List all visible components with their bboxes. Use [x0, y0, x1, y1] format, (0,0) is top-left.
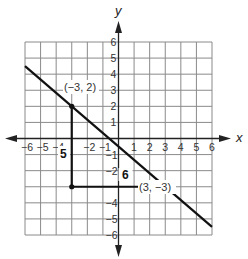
point-label-3-neg3: (3, −3)	[139, 181, 171, 193]
x-axis-label: x	[235, 130, 243, 145]
x-tick-label: 1	[131, 141, 137, 153]
x-axis-left-arrow-icon	[5, 135, 17, 142]
x-tick-label: −6	[21, 141, 33, 153]
x-tick-label: 6	[209, 141, 215, 153]
x-tick-label: −2	[83, 141, 95, 153]
y-tick-label: −1	[106, 149, 118, 161]
y-tick-label: −4	[106, 197, 118, 209]
point-label-neg3-2: (−3, 2)	[64, 81, 96, 93]
y-tick-label: 6	[111, 36, 117, 48]
y-tick-label: −5	[106, 213, 118, 225]
x-tick-label: 3	[162, 141, 168, 153]
horizontal-leg-label: 6	[122, 168, 129, 182]
x-tick-label: 4	[178, 141, 184, 153]
point-neg3-2	[69, 104, 74, 109]
y-tick-label: 5	[111, 52, 117, 64]
y-tick-label: −2	[106, 165, 118, 177]
x-tick-label: 5	[193, 141, 199, 153]
y-axis-up-arrow-icon	[115, 21, 122, 33]
coordinate-plane-figure: x y −6−5−4−2−1123456 654321−1−2−4−5−6 (−…	[0, 0, 248, 259]
y-tick-label: 1	[111, 116, 117, 128]
coordinate-plane-svg: x y −6−5−4−2−1123456 654321−1−2−4−5−6 (−…	[0, 0, 248, 259]
x-axis-right-arrow-icon	[219, 135, 231, 142]
y-tick-label: 2	[111, 100, 117, 112]
vertical-leg-label: 5	[60, 147, 67, 161]
triangle-corner-point	[69, 184, 74, 189]
y-axis-label: y	[114, 3, 123, 18]
y-axis-down-arrow-icon	[115, 245, 122, 257]
y-tick-label: 3	[111, 84, 117, 96]
y-tick-label: 4	[111, 68, 117, 80]
y-tick-label: −6	[106, 229, 118, 241]
x-tick-label: 2	[147, 141, 153, 153]
x-tick-label: −5	[37, 141, 49, 153]
